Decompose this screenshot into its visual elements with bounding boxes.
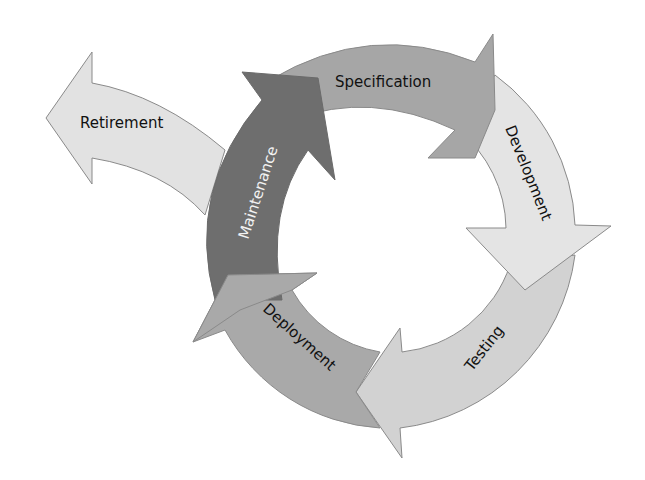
maintenance-arrow: Maintenance (207, 72, 335, 300)
lifecycle-diagram: Retirement Testing Deployment Developmen… (0, 0, 645, 480)
specification-label: Specification (335, 73, 431, 91)
retirement-arrow: Retirement (46, 52, 225, 215)
retirement-label: Retirement (80, 114, 163, 132)
testing-arrow: Testing (356, 255, 575, 458)
